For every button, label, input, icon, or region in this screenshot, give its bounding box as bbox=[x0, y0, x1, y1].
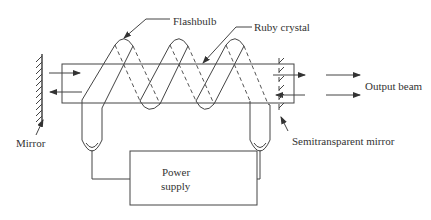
power-supply-label-line2: supply bbox=[161, 180, 191, 192]
mirror-pointer-icon bbox=[36, 120, 43, 135]
semitransparent-mirror-pointer-icon bbox=[281, 117, 288, 131]
left-wire bbox=[92, 150, 130, 179]
mirror bbox=[36, 54, 42, 122]
laser-diagram: Mirror Semitransparent mirror Output bea… bbox=[0, 0, 431, 220]
ruby-crystal-label: Ruby crystal bbox=[254, 21, 310, 33]
flashbulb-coil bbox=[82, 39, 270, 151]
semitransparent-mirror bbox=[279, 58, 284, 110]
mirror-label: Mirror bbox=[16, 137, 46, 149]
semitransparent-mirror-label: Semitransparent mirror bbox=[292, 135, 395, 147]
power-supply bbox=[130, 151, 257, 205]
ruby-crystal bbox=[62, 64, 294, 103]
flashbulb-pointer-icon bbox=[124, 19, 170, 38]
output-beam-label: Output beam bbox=[365, 80, 423, 92]
power-supply-label-line1: Power bbox=[162, 166, 190, 178]
flashbulb-label: Flashbulb bbox=[173, 15, 217, 27]
ruby-crystal-pointer-icon bbox=[203, 27, 252, 63]
